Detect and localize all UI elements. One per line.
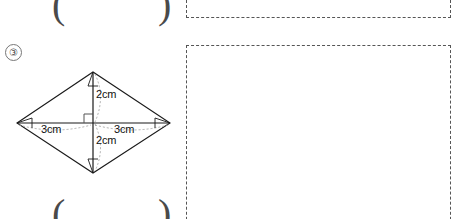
top-answer-parentheses: ( ): [0, 0, 180, 22]
bottom-answer-parentheses: ( ): [0, 197, 180, 219]
label-lower-vertical: 2cm: [96, 134, 116, 146]
label-right-horizontal: 3cm: [114, 123, 134, 135]
label-left-horizontal: 3cm: [41, 123, 61, 135]
question-number: ③: [5, 44, 22, 61]
answer-box-1[interactable]: [186, 0, 451, 18]
guide-arc-lower: [95, 124, 101, 171]
paren-close: ): [158, 197, 171, 219]
label-upper-vertical: 2cm: [96, 88, 116, 100]
right-angle-square: [84, 114, 93, 123]
paren-open: (: [52, 197, 65, 219]
answer-box-2[interactable]: [186, 45, 451, 219]
rhombus-svg: [10, 64, 180, 182]
paren-close: ): [158, 0, 171, 22]
worksheet-page: ( ) ③ 2cm 2cm 3cm: [0, 0, 457, 219]
rhombus-figure: 2cm 2cm 3cm 3cm: [10, 64, 180, 182]
paren-open: (: [52, 0, 65, 22]
